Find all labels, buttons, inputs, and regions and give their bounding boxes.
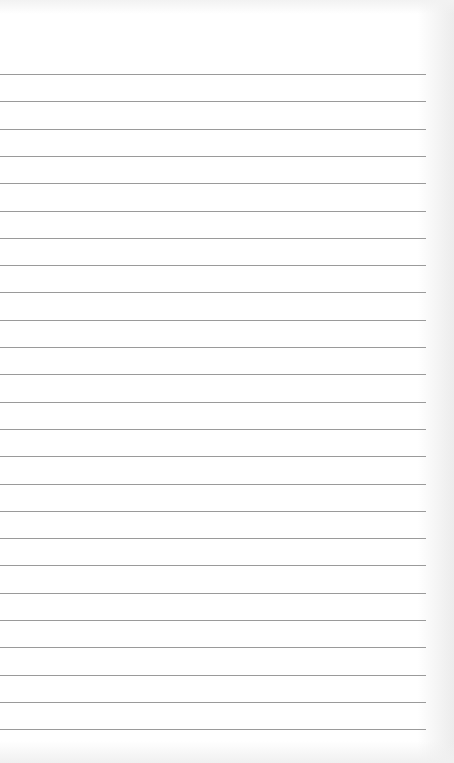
lined-paper-sheet bbox=[0, 0, 454, 763]
ruled-line bbox=[0, 620, 426, 621]
ruled-line bbox=[0, 511, 426, 512]
ruled-line bbox=[0, 729, 426, 730]
ruled-line bbox=[0, 675, 426, 676]
ruled-line bbox=[0, 347, 426, 348]
ruled-line bbox=[0, 647, 426, 648]
ruled-line bbox=[0, 593, 426, 594]
ruled-line bbox=[0, 320, 426, 321]
ruled-line bbox=[0, 211, 426, 212]
ruled-line bbox=[0, 292, 426, 293]
ruled-line bbox=[0, 265, 426, 266]
ruled-line bbox=[0, 702, 426, 703]
ruled-line bbox=[0, 156, 426, 157]
ruled-line bbox=[0, 74, 426, 75]
ruled-line bbox=[0, 429, 426, 430]
ruled-line bbox=[0, 565, 426, 566]
ruled-line bbox=[0, 183, 426, 184]
ruled-line bbox=[0, 484, 426, 485]
ruled-line bbox=[0, 238, 426, 239]
ruled-line bbox=[0, 456, 426, 457]
ruled-line bbox=[0, 402, 426, 403]
ruled-line bbox=[0, 101, 426, 102]
ruled-line bbox=[0, 374, 426, 375]
ruled-line bbox=[0, 129, 426, 130]
ruled-line bbox=[0, 538, 426, 539]
